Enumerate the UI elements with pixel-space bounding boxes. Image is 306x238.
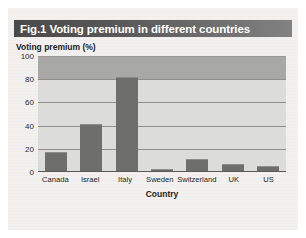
- x-tick-label: Italy: [108, 175, 143, 184]
- bar[interactable]: [45, 152, 67, 172]
- x-tick-label: Canada: [38, 175, 73, 184]
- x-tick-label: Sweden: [142, 175, 177, 184]
- bar-series: [38, 56, 286, 172]
- y-tick-label: 60: [25, 98, 34, 107]
- x-tick-label: Switzerland: [177, 175, 216, 184]
- figure-title-bar: Fig.1 Voting premium in different countr…: [14, 20, 292, 37]
- chart-plot-wrapper: 020406080100 CanadaIsraelItalySwedenSwit…: [16, 56, 286, 188]
- figure-root: Fig.1 Voting premium in different countr…: [0, 0, 306, 238]
- x-axis-label: Country: [38, 189, 286, 199]
- bar-slot: [144, 56, 179, 172]
- y-tick-label: 40: [25, 121, 34, 130]
- y-axis-tick-labels: 020406080100: [16, 56, 36, 172]
- x-axis-baseline: [38, 171, 286, 172]
- figure-title-text: Fig.1 Voting premium in different countr…: [14, 23, 250, 35]
- bar-slot: [251, 56, 286, 172]
- y-tick-label: 0: [30, 168, 34, 177]
- bar[interactable]: [80, 124, 102, 172]
- x-tick-label: US: [251, 175, 286, 184]
- y-tick-label: 20: [25, 144, 34, 153]
- x-tick-label: UK: [216, 175, 251, 184]
- bar-slot: [73, 56, 108, 172]
- y-tick-label: 80: [25, 75, 34, 84]
- bar-slot: [215, 56, 250, 172]
- plot-area: [38, 56, 286, 172]
- x-tick-label: Israel: [73, 175, 108, 184]
- y-tick-label: 100: [21, 52, 34, 61]
- bar[interactable]: [116, 77, 138, 172]
- bar-slot: [180, 56, 215, 172]
- bar-slot: [38, 56, 73, 172]
- bar-slot: [109, 56, 144, 172]
- x-axis-tick-labels: CanadaIsraelItalySwedenSwitzerlandUKUS: [38, 175, 286, 184]
- y-axis-label: Voting premium (%): [16, 42, 96, 52]
